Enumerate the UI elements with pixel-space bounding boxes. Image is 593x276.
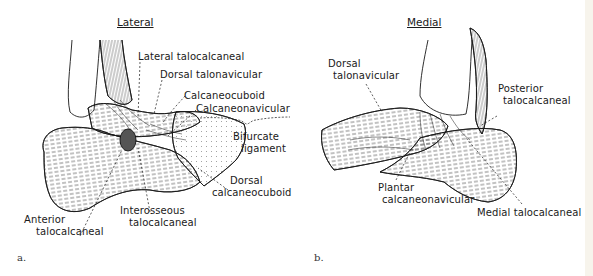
- label-plantar-calcaneonavicular-line2: calcaneonavicular: [382, 194, 474, 206]
- label-dorsal-talonavicular: Dorsal talonavicular: [160, 69, 262, 81]
- label-plantar-calcaneonavicular-line1: Plantar: [378, 182, 414, 194]
- label-interosseous-line2: talocalcaneal: [129, 217, 197, 229]
- label-dorsal-calcaneocuboid-line2: calcaneocuboid: [212, 187, 291, 199]
- label-dorsal-calcaneocuboid-line1: Dorsal: [230, 175, 263, 187]
- panel-letter-a: a.: [17, 252, 26, 263]
- label-dorsal-talonavicular-b-line2: talonavicular: [333, 70, 399, 82]
- label-posterior-talocalcaneal-line2: talocalcaneal: [503, 95, 571, 107]
- tibia-shape: [100, 40, 132, 104]
- label-posterior-talocalcaneal-line1: Posterior: [498, 83, 543, 95]
- label-interosseous-line1: Interosseous: [120, 205, 185, 217]
- medial-view-title: Medial: [407, 16, 441, 28]
- label-anterior-talocalcaneal-line1: Anterior: [24, 214, 65, 226]
- lateral-foot-drawing: [43, 40, 246, 212]
- lateral-view-title: Lateral: [117, 16, 154, 28]
- label-lateral-talocalcaneal: Lateral talocalcaneal: [138, 51, 244, 63]
- label-bifurcate-line2: ligament: [241, 143, 286, 155]
- label-calcaneonavicular: Calcaneonavicular: [196, 103, 290, 115]
- label-anterior-talocalcaneal-line2: talocalcaneal: [36, 226, 104, 238]
- label-medial-talocalcaneal: Medial talocalcaneal: [477, 207, 581, 219]
- sinus-tarsi: [120, 129, 136, 151]
- label-dorsal-talonavicular-b-line1: Dorsal: [328, 58, 361, 70]
- panel-letter-b: b.: [314, 252, 324, 263]
- label-bifurcate-line1: Bifurcate: [233, 131, 279, 143]
- medial-tibia-shape: [420, 40, 472, 115]
- label-calcaneocuboid: Calcaneocuboid: [184, 90, 265, 102]
- medial-foot-drawing: [322, 28, 517, 202]
